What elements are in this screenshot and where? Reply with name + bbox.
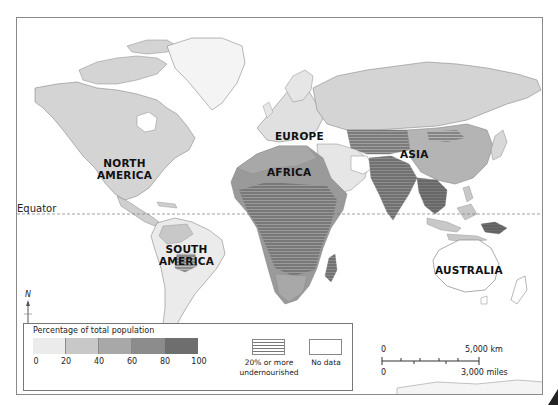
label-south-america: SOUTH AMERICA xyxy=(159,243,214,267)
scale-bottom-start: 0 xyxy=(381,368,386,377)
legend-tick: 20 xyxy=(61,357,71,366)
legend-swatch-20-40 xyxy=(66,338,99,354)
scale-bottom-end: 3,000 miles xyxy=(461,368,508,377)
label-north-america: NORTH AMERICA xyxy=(97,157,152,181)
legend-no-data-swatch xyxy=(309,339,342,355)
legend-no-data-label: No data xyxy=(304,358,348,367)
label-australia: AUSTRALIA xyxy=(435,264,503,276)
north-arrow-label: N xyxy=(25,290,31,299)
new-zealand xyxy=(511,276,527,304)
legend: Percentage of total population 0 20 40 6… xyxy=(23,323,353,391)
legend-hatch-label-line2: undernourished xyxy=(236,368,302,378)
central-america xyxy=(117,196,159,226)
legend-tick: 100 xyxy=(191,357,206,366)
legend-tick: 40 xyxy=(94,357,104,366)
legend-hatch-swatch xyxy=(252,339,285,355)
label-north-america-line1: NORTH xyxy=(97,157,152,169)
page-corner-decoration xyxy=(548,389,558,405)
label-asia: ASIA xyxy=(400,148,429,160)
legend-swatch-80-100 xyxy=(165,338,198,354)
scale-top-end: 5,000 km xyxy=(465,345,503,354)
arctic-archipelago xyxy=(79,40,177,84)
legend-hatch-label-line1: 20% or more xyxy=(236,358,302,368)
scale-bar-line xyxy=(381,356,491,368)
label-north-america-line2: AMERICA xyxy=(97,169,152,181)
equator-label: Equator xyxy=(17,203,56,214)
north-america xyxy=(35,82,195,200)
scale-bar: 0 5,000 km 0 3,000 miles xyxy=(379,345,519,385)
legend-title: Percentage of total population xyxy=(33,326,154,335)
legend-color-scale xyxy=(33,338,198,354)
legend-hatch-label: 20% or more undernourished xyxy=(236,358,302,378)
greenland xyxy=(167,38,245,110)
map-frame: Equator NORTH AMERICA SOUTH AMERICA EURO… xyxy=(16,17,543,395)
label-south-america-line2: AMERICA xyxy=(159,255,214,267)
legend-tick: 80 xyxy=(160,357,170,366)
legend-tick: 0 xyxy=(33,357,38,366)
scale-top-start: 0 xyxy=(381,345,386,354)
label-south-america-line1: SOUTH xyxy=(159,243,214,255)
russia xyxy=(313,62,541,130)
label-europe: EUROPE xyxy=(275,130,324,142)
legend-tick: 60 xyxy=(127,357,137,366)
label-africa: AFRICA xyxy=(267,166,311,178)
legend-swatch-0-20 xyxy=(33,338,66,354)
legend-swatch-60-80 xyxy=(132,338,165,354)
legend-swatch-40-60 xyxy=(99,338,132,354)
